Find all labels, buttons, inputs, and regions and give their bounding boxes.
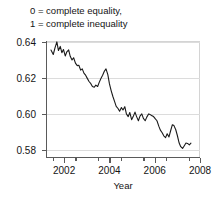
x-axis-tick-minor [189, 158, 190, 161]
x-axis-label: 2006 [144, 165, 166, 176]
x-axis-tick-minor [53, 158, 54, 161]
x-axis-tick-minor [143, 158, 144, 161]
plot-area: 0.580.600.620.64 2002200420062008 Year [46, 41, 200, 158]
x-axis-tick-major [64, 158, 65, 163]
x-axis-tick-minor [121, 158, 122, 161]
x-axis-tick-minor [75, 158, 76, 161]
x-axis-tick-minor [166, 158, 167, 161]
caption-line-1: 0 = complete equality, [30, 5, 210, 18]
plot-frame-axis [46, 41, 200, 158]
y-axis-label: 0.60 [2, 108, 36, 119]
y-axis-label: 0.58 [2, 144, 36, 155]
y-axis-tick [42, 150, 46, 151]
caption-line-2: 1 = complete inequality [30, 18, 210, 31]
x-axis-tick-minor [98, 158, 99, 161]
x-axis-tick-major [200, 158, 201, 163]
x-axis-label: 2008 [189, 165, 211, 176]
y-axis-tick [42, 42, 46, 43]
x-axis-label: 2004 [98, 165, 120, 176]
y-axis-label: 0.64 [2, 36, 36, 47]
x-axis-title: Year [46, 180, 200, 191]
x-axis-tick-major [155, 158, 156, 163]
y-axis-label: 0.62 [2, 72, 36, 83]
x-axis-tick-major [109, 158, 110, 163]
y-axis-tick [42, 114, 46, 115]
chart-figure: 0 = complete equality, 1 = complete ineq… [0, 0, 212, 199]
x-axis-label: 2002 [53, 165, 75, 176]
chart-subtitle: 0 = complete equality, 1 = complete ineq… [30, 5, 210, 30]
y-axis-tick [42, 78, 46, 79]
